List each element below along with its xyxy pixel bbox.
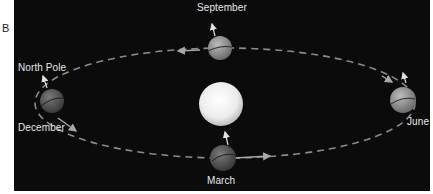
panel-label: B (2, 22, 9, 34)
orbit-diagram (14, 0, 430, 191)
label-march: March (207, 175, 235, 186)
earth-march (210, 132, 236, 171)
orbit-arrow-march (234, 156, 270, 158)
orbit-diagram-panel: September North Pole December June March (14, 0, 430, 191)
label-north-pole: North Pole (18, 62, 66, 73)
sun (199, 82, 243, 126)
orbit-arrow-september (178, 50, 200, 51)
orbit-arrow-june (382, 76, 392, 82)
label-june: June (407, 116, 429, 127)
label-december: December (18, 122, 65, 133)
label-september: September (197, 2, 247, 13)
earth-september (208, 24, 232, 60)
earth-june (390, 73, 416, 113)
earth-december (40, 76, 64, 113)
